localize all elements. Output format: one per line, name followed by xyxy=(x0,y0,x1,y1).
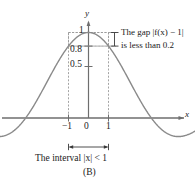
y-tick-label-1: 1 xyxy=(79,26,84,36)
y-axis-label: y xyxy=(85,9,89,18)
x-tick-label-0: 0 xyxy=(84,122,89,132)
gap-annotation-line2: is less than 0.2 xyxy=(121,41,174,50)
x-axis-arrowhead xyxy=(179,116,185,120)
panel-label: (B) xyxy=(83,168,96,178)
interval-arrow-head-left xyxy=(68,145,73,148)
interval-caption: The interval |x| < 1 xyxy=(35,154,107,164)
y-tick-label-0-5: 0.5 xyxy=(70,60,82,70)
x-axis-label: x xyxy=(185,110,189,119)
x-tick-label-neg1: −1 xyxy=(62,122,72,132)
interval-arrow-head-right xyxy=(104,145,109,148)
y-tick-label-0-8: 0.8 xyxy=(70,45,82,55)
x-tick-label-pos1: 1 xyxy=(106,122,111,132)
gap-annotation-line1: The gap |f(x) − 1| xyxy=(121,28,184,37)
y-axis-arrowhead xyxy=(87,21,91,27)
figure-panel-b: y x 1 0.8 0.5 −1 0 1 The gap |f(x) − 1| … xyxy=(0,0,195,181)
